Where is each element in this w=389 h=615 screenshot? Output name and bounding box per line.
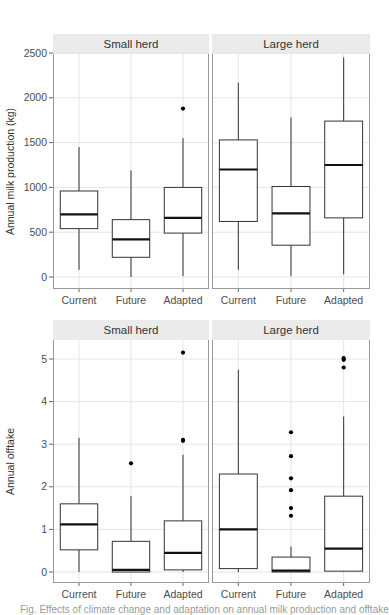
outlier-point [342, 356, 346, 360]
y-tick-label: 2 [41, 480, 47, 492]
outlier-point [129, 461, 133, 465]
outlier-point [289, 430, 293, 434]
y-tick-label: 4 [41, 395, 47, 407]
facet-large-herd: Large herdCurrentFutureAdapted [212, 34, 370, 306]
facet-label: Small herd [104, 324, 159, 336]
x-tick-label: Future [116, 588, 147, 600]
y-tick-label: 2500 [24, 47, 48, 59]
facet-label: Large herd [263, 38, 319, 50]
x-tick-label: Current [221, 294, 256, 306]
x-tick-label: Adapted [163, 294, 202, 306]
x-tick-label: Adapted [324, 294, 363, 306]
x-tick-label: Current [61, 588, 96, 600]
y-tick-label: 500 [29, 226, 47, 238]
outlier-point [289, 454, 293, 458]
y-tick-label: 2000 [24, 91, 48, 103]
x-tick-label: Current [61, 294, 96, 306]
x-tick-label: Future [116, 294, 147, 306]
y-axis-title: Annual offtake [4, 428, 16, 495]
x-tick-label: Current [221, 588, 256, 600]
outlier-point [181, 438, 185, 442]
outlier-point [289, 488, 293, 492]
chart-milk-production: Annual milk production (kg)0500100015002… [4, 34, 370, 306]
x-tick-label: Adapted [324, 588, 363, 600]
x-tick-label: Future [276, 294, 307, 306]
facet-label: Small herd [104, 38, 159, 50]
y-tick-label: 0 [41, 566, 47, 578]
facet-small-herd: Small herdCurrentFutureAdapted [53, 320, 209, 600]
y-tick-label: 1000 [24, 181, 48, 193]
y-tick-label: 1500 [24, 136, 48, 148]
outlier-point [289, 476, 293, 480]
y-tick-label: 1 [41, 523, 47, 535]
figure-caption-cutoff: Fig. Effects of climate change and adapt… [20, 604, 389, 615]
facet-label: Large herd [263, 324, 319, 336]
y-axis-title: Annual milk production (kg) [4, 108, 16, 235]
outlier-point [181, 106, 185, 110]
facet-large-herd: Large herdCurrentFutureAdapted [212, 320, 370, 600]
facet-small-herd: Small herdCurrentFutureAdapted [53, 34, 209, 306]
chart-offtake: Annual offtake012345Small herdCurrentFut… [4, 320, 370, 600]
x-tick-label: Adapted [163, 588, 202, 600]
y-tick-label: 5 [41, 353, 47, 365]
y-tick-label: 3 [41, 438, 47, 450]
outlier-point [181, 351, 185, 355]
y-tick-label: 0 [41, 271, 47, 283]
outlier-point [289, 514, 293, 518]
outlier-point [289, 506, 293, 510]
x-tick-label: Future [276, 588, 307, 600]
outlier-point [342, 365, 346, 369]
